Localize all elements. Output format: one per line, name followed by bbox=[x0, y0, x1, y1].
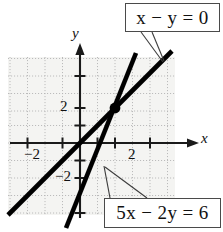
y-tick-label-pos2: 2 bbox=[60, 98, 68, 115]
x-tick-label-pos2: 2 bbox=[128, 146, 136, 163]
y-tick-label-neg2: −2 bbox=[55, 168, 71, 185]
equation-callout-bottom: 5x − 2y = 6 bbox=[104, 198, 221, 228]
intersection-point-marker bbox=[110, 103, 121, 114]
y-axis-label: y bbox=[72, 25, 79, 42]
x-tick-label-neg2: −2 bbox=[24, 146, 40, 163]
graph-figure: y x −2 2 2 −2 x − y = 0 5x − 2y = 6 bbox=[0, 0, 223, 232]
x-axis-label: x bbox=[201, 130, 208, 147]
equation-callout-top: x − y = 0 bbox=[125, 3, 220, 32]
